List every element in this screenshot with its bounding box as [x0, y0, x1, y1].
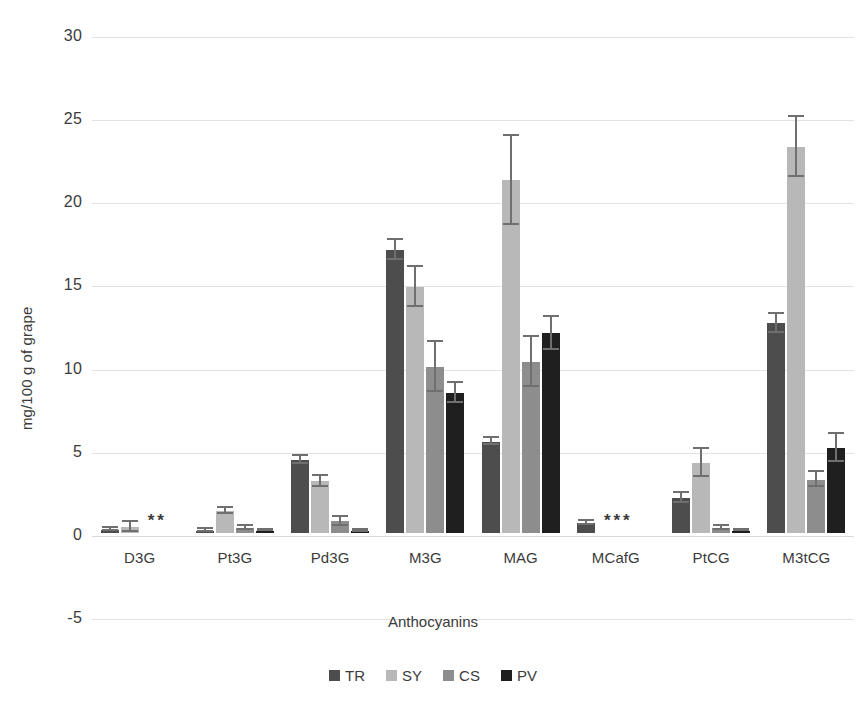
- error-bar-cap: [407, 305, 423, 307]
- error-bar-cap: [768, 312, 784, 314]
- error-bar-cap: [808, 485, 824, 487]
- y-axis-title: mg/100 g of grape: [18, 110, 42, 430]
- error-bar: [550, 317, 552, 350]
- error-bar: [795, 117, 797, 177]
- error-bar: [394, 240, 396, 260]
- error-bar-cap: [387, 238, 403, 240]
- bar-chart: mg/100 g of grape 302520151050-5 ***** D…: [0, 0, 866, 710]
- error-bar-cap: [447, 401, 463, 403]
- error-bar: [454, 383, 456, 403]
- bar-rect: [807, 480, 825, 533]
- legend-swatch-icon: [386, 670, 397, 681]
- bar-rect: [767, 323, 785, 533]
- error-bar-cap: [788, 115, 804, 117]
- error-bar-cap: [483, 436, 499, 438]
- bar-rect: [787, 147, 805, 533]
- y-axis-tick-label: 20: [44, 193, 82, 211]
- error-bar-cap: [693, 475, 709, 477]
- error-bar-cap: [102, 529, 118, 531]
- error-bar-cap: [122, 520, 138, 522]
- error-bar-cap: [332, 524, 348, 526]
- error-bar-cap: [543, 315, 559, 317]
- bar-rect: [291, 460, 309, 533]
- error-bar-cap: [197, 527, 213, 529]
- legend-item-tr[interactable]: TR: [329, 668, 365, 683]
- bar-rect: [311, 481, 329, 533]
- error-bar-cap: [733, 528, 749, 530]
- error-bar: [835, 434, 837, 462]
- error-bar-cap: [503, 223, 519, 225]
- error-bar: [414, 267, 416, 307]
- error-bar-cap: [523, 385, 539, 387]
- bar-rect: [542, 333, 560, 533]
- x-axis-title: Anthocyanins: [0, 613, 866, 630]
- y-axis-tick-label: 30: [44, 27, 82, 45]
- error-bar-cap: [292, 454, 308, 456]
- chart-legend: TRSYCSPV: [0, 668, 866, 683]
- error-bar-cap: [788, 175, 804, 177]
- legend-label: TR: [345, 668, 365, 683]
- error-bar-cap: [217, 506, 233, 508]
- error-bar-cap: [447, 381, 463, 383]
- y-axis-tick-label: 5: [44, 443, 82, 461]
- significance-marker: ***: [604, 511, 633, 531]
- error-bar-cap: [217, 512, 233, 514]
- significance-marker: **: [148, 511, 167, 531]
- legend-item-sy[interactable]: SY: [386, 668, 422, 683]
- error-bar-cap: [578, 523, 594, 525]
- error-bar-cap: [503, 134, 519, 136]
- error-bar-cap: [257, 528, 273, 530]
- bar-rect: [522, 362, 540, 533]
- error-bar-cap: [427, 340, 443, 342]
- error-bar-cap: [693, 447, 709, 449]
- legend-label: CS: [459, 668, 480, 683]
- error-bar-cap: [543, 348, 559, 350]
- error-bar: [775, 314, 777, 334]
- error-bar-cap: [387, 258, 403, 260]
- error-bar-cap: [332, 515, 348, 517]
- error-bar-cap: [768, 331, 784, 333]
- error-bar-cap: [673, 491, 689, 493]
- error-bar-cap: [828, 432, 844, 434]
- error-bar-cap: [407, 265, 423, 267]
- legend-swatch-icon: [501, 670, 512, 681]
- error-bar-cap: [352, 528, 368, 530]
- legend-swatch-icon: [443, 670, 454, 681]
- error-bar-cap: [237, 528, 253, 530]
- error-bar-cap: [578, 519, 594, 521]
- error-bar-cap: [713, 528, 729, 530]
- error-bar-cap: [312, 474, 328, 476]
- error-bar: [700, 449, 702, 477]
- bar-rect: [386, 250, 404, 533]
- error-bar-cap: [427, 390, 443, 392]
- legend-item-cs[interactable]: CS: [443, 668, 480, 683]
- y-axis-tick-label: 15: [44, 276, 82, 294]
- error-bar: [530, 337, 532, 387]
- error-bar-cap: [808, 470, 824, 472]
- error-bar: [434, 342, 436, 392]
- error-bar-cap: [102, 526, 118, 528]
- bar-rect: [502, 180, 520, 533]
- y-axis-tick-label: 25: [44, 110, 82, 128]
- legend-label: SY: [402, 668, 422, 683]
- error-bar-cap: [673, 501, 689, 503]
- legend-swatch-icon: [329, 670, 340, 681]
- bar-rect: [216, 511, 234, 533]
- bar-rect: [482, 442, 500, 533]
- error-bar-cap: [292, 462, 308, 464]
- error-bar-cap: [483, 443, 499, 445]
- error-bar-cap: [197, 530, 213, 532]
- error-bar-cap: [122, 530, 138, 532]
- x-axis-tick-label-m3tcg: M3tCG: [746, 549, 866, 566]
- error-bar-cap: [713, 524, 729, 526]
- error-bar-cap: [312, 485, 328, 487]
- plot-area: *****: [92, 37, 854, 619]
- y-axis-tick-label: 10: [44, 360, 82, 378]
- error-bar-cap: [237, 524, 253, 526]
- bar-rect: [446, 393, 464, 533]
- legend-item-pv[interactable]: PV: [501, 668, 537, 683]
- error-bar-cap: [523, 335, 539, 337]
- error-bar: [510, 136, 512, 226]
- y-axis-tick-label: 0: [44, 526, 82, 544]
- bar-rect: [672, 498, 690, 533]
